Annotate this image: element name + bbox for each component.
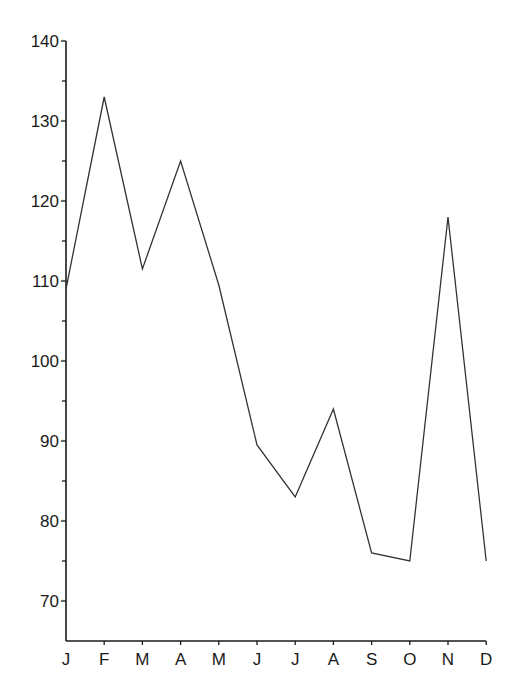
x-tick-label: N [442, 650, 454, 669]
y-tick-label: 70 [40, 592, 59, 611]
x-tick-label: M [135, 650, 149, 669]
y-tick-label: 120 [31, 192, 59, 211]
x-tick-label: J [291, 650, 300, 669]
x-tick-label: A [328, 650, 340, 669]
x-tick-label: O [403, 650, 416, 669]
x-tick-label: D [480, 650, 492, 669]
x-tick-label: S [366, 650, 377, 669]
x-tick-label: F [99, 650, 109, 669]
y-tick-label: 80 [40, 512, 59, 531]
y-axis: 708090100110120130140 [31, 32, 66, 641]
line-chart: 708090100110120130140 JFMAMJJASOND [0, 0, 519, 696]
y-tick-label: 100 [31, 352, 59, 371]
x-tick-label: J [253, 650, 262, 669]
x-tick-label: J [62, 650, 71, 669]
y-tick-label: 90 [40, 432, 59, 451]
y-tick-label: 110 [32, 272, 59, 291]
x-tick-label: M [212, 650, 226, 669]
x-tick-label: A [175, 650, 187, 669]
y-tick-label: 140 [31, 32, 59, 51]
data-line [66, 97, 486, 561]
y-tick-label: 130 [31, 112, 59, 131]
x-axis: JFMAMJJASOND [62, 641, 493, 669]
